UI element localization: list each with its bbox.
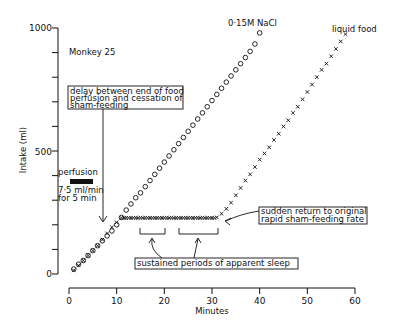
data-point — [291, 111, 295, 115]
data-point — [301, 98, 305, 102]
data-point — [214, 92, 219, 97]
data-point — [105, 234, 110, 239]
data-point — [129, 202, 134, 207]
x-axis-label: Minutes — [195, 306, 229, 316]
data-point — [105, 232, 109, 236]
data-point — [225, 207, 229, 211]
intake-chart: 1000 500 0 Intake (ml) 0102030405060 Min… — [0, 0, 393, 327]
data-point — [234, 68, 239, 73]
data-point — [210, 98, 215, 103]
data-point — [244, 179, 248, 183]
data-point — [248, 173, 252, 177]
data-point — [191, 123, 196, 128]
return-annotation: sudden return to original rapid sham-fee… — [225, 206, 367, 225]
y-axis-label: Intake (ml) — [18, 127, 28, 173]
series-label-food: liquid food — [332, 24, 377, 34]
data-point — [277, 132, 281, 136]
y-tick-500: 500 — [35, 147, 52, 157]
data-point — [306, 90, 310, 94]
series-liquid-food — [72, 32, 347, 272]
data-point — [176, 141, 181, 146]
data-point — [229, 201, 233, 205]
data-point — [96, 244, 100, 248]
data-point — [186, 129, 191, 134]
data-point — [229, 74, 234, 79]
data-point — [310, 83, 314, 87]
data-point — [282, 125, 286, 129]
sleep-label: sustained periods of apparent sleep — [137, 258, 290, 268]
data-point — [320, 68, 324, 72]
data-point — [124, 208, 129, 213]
y-tick-0: 0 — [46, 269, 52, 279]
data-point — [272, 138, 276, 142]
chart-title: Monkey 25 — [69, 47, 115, 57]
svg-text:rapid sham-feeding rate: rapid sham-feeding rate — [261, 214, 364, 224]
data-point — [82, 259, 86, 263]
x-tick-label: 10 — [111, 296, 123, 306]
data-point — [257, 31, 262, 36]
svg-text:perfusion: perfusion — [58, 167, 98, 177]
data-point — [157, 166, 162, 171]
data-point — [148, 178, 153, 183]
data-point — [143, 184, 148, 189]
data-point — [86, 254, 90, 258]
data-point — [138, 191, 143, 196]
x-tick-label: 20 — [159, 296, 171, 306]
data-point — [224, 80, 229, 85]
data-point — [258, 158, 262, 162]
data-point — [200, 111, 205, 116]
x-tick-label: 60 — [349, 296, 361, 306]
data-point — [195, 117, 200, 122]
y-axis — [52, 28, 58, 274]
data-point — [253, 165, 257, 169]
data-point — [172, 147, 177, 152]
data-point — [243, 55, 248, 60]
data-point — [220, 212, 224, 216]
data-point — [167, 154, 172, 159]
data-point — [238, 61, 243, 66]
data-point — [181, 135, 186, 140]
y-tick-1000: 1000 — [29, 23, 52, 33]
data-point — [110, 229, 115, 234]
data-point — [286, 118, 290, 122]
data-point — [133, 195, 138, 200]
data-point — [205, 104, 210, 109]
data-point — [315, 75, 319, 79]
svg-text:sham-feeding: sham-feeding — [70, 100, 128, 110]
x-tick-label: 0 — [66, 296, 72, 306]
data-point — [248, 49, 253, 54]
svg-text:for 5 min: for 5 min — [58, 193, 97, 203]
perfusion-annotation: perfusion 7·5 ml/min for 5 min — [58, 167, 104, 203]
data-point — [239, 186, 243, 190]
data-point — [114, 223, 119, 228]
x-tick-label: 40 — [254, 296, 266, 306]
data-point — [329, 54, 333, 58]
data-point — [153, 172, 158, 177]
data-point — [325, 62, 329, 66]
data-point — [219, 86, 224, 91]
data-point — [296, 105, 300, 109]
data-point — [334, 47, 338, 51]
data-point — [115, 221, 119, 225]
x-tick-label: 50 — [302, 296, 314, 306]
data-point — [267, 146, 271, 150]
series-label-nacl: 0·15M NaCl — [228, 18, 277, 28]
data-point — [234, 193, 238, 197]
data-point — [263, 152, 267, 156]
data-point — [253, 42, 258, 47]
x-axis — [69, 288, 355, 294]
data-point — [162, 160, 167, 165]
data-point — [91, 249, 95, 253]
series-nacl — [71, 31, 262, 272]
data-point — [339, 40, 343, 44]
x-tick-label: 30 — [206, 296, 218, 306]
